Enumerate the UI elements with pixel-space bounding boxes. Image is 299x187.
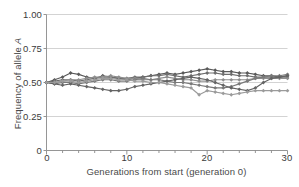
series-marker [85, 85, 89, 89]
series-marker [197, 72, 201, 76]
series-marker [173, 83, 177, 87]
series-marker [149, 74, 153, 78]
plot-area [0, 0, 299, 187]
series-marker [213, 90, 217, 94]
series-marker [61, 83, 65, 87]
series-marker [278, 89, 282, 93]
series-marker [229, 93, 233, 97]
series-marker [165, 75, 169, 79]
series-marker [270, 89, 274, 93]
series-marker [205, 67, 209, 71]
series-marker [141, 83, 145, 87]
series-marker [221, 91, 225, 95]
series-marker [45, 81, 49, 85]
series-marker [245, 74, 249, 78]
series-marker [229, 72, 233, 76]
series-marker [197, 83, 201, 87]
series-marker [189, 70, 193, 74]
series-marker [213, 86, 217, 90]
chart-container: 1.00 0.75 0.50 0.25 0 0 10 20 30 Frequen… [0, 0, 299, 187]
series-marker [117, 89, 121, 93]
series-marker [237, 91, 241, 95]
series-marker [69, 71, 73, 75]
series-marker [253, 89, 257, 93]
series-marker [109, 89, 113, 93]
series-marker [133, 85, 137, 89]
series-marker [237, 74, 241, 78]
series-marker [77, 72, 81, 76]
series-marker [157, 81, 161, 85]
series-marker [286, 89, 290, 93]
series-marker [93, 86, 97, 90]
series-marker [197, 77, 201, 81]
series-marker [125, 87, 129, 91]
series-marker [197, 68, 201, 72]
series-marker [229, 78, 233, 82]
series-marker [205, 85, 209, 89]
series-marker [101, 87, 105, 91]
series-marker [213, 71, 217, 75]
series-marker [181, 71, 185, 75]
series-marker [237, 78, 241, 82]
series-marker [205, 89, 209, 93]
series-marker [237, 87, 241, 91]
series-marker [181, 81, 185, 85]
series-marker [181, 85, 185, 89]
series-marker [213, 81, 217, 85]
series-marker [221, 72, 225, 76]
series-marker [221, 83, 225, 87]
series-marker [262, 89, 266, 93]
series-marker [221, 78, 225, 82]
series-marker [205, 71, 209, 75]
